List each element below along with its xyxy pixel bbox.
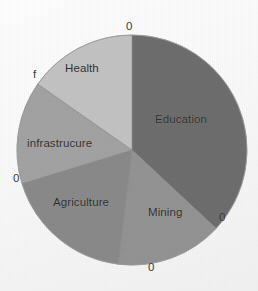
pie-label-health: Health: [65, 62, 99, 74]
pie-label-infrastructure: infrastrucure: [27, 137, 92, 149]
pie-label-education: Education: [155, 113, 207, 125]
pie-value-label-right: 0: [219, 211, 225, 223]
pie-label-mining: Mining: [148, 206, 182, 218]
pie-value-label-top: 0: [126, 20, 132, 32]
pie-value-label-upper-left: f: [33, 68, 36, 80]
pie-label-agriculture: Agriculture: [53, 196, 109, 208]
pie-value-label-left: 0: [13, 172, 19, 184]
pie-chart-figure: Education Mining Agriculture infrastrucu…: [0, 0, 258, 291]
pie-value-label-bottom: 0: [148, 261, 154, 273]
